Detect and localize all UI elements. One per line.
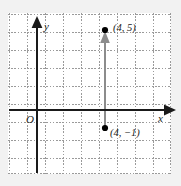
data-point-lower xyxy=(102,125,108,131)
x-axis xyxy=(9,105,176,116)
y-axis-label: y xyxy=(44,21,49,32)
origin-label: O xyxy=(26,114,34,125)
data-point-upper-label: (4, 5) xyxy=(113,23,136,34)
data-point-lower-label: (4, −1) xyxy=(110,128,140,139)
coordinate-grid-figure: y x O (4, 5) (4, −1) xyxy=(0,0,181,186)
translation-arrow xyxy=(100,31,110,128)
y-axis xyxy=(32,16,43,173)
axes-and-data-layer xyxy=(0,0,181,186)
data-point-upper xyxy=(102,27,108,33)
x-axis-label: x xyxy=(158,113,163,124)
